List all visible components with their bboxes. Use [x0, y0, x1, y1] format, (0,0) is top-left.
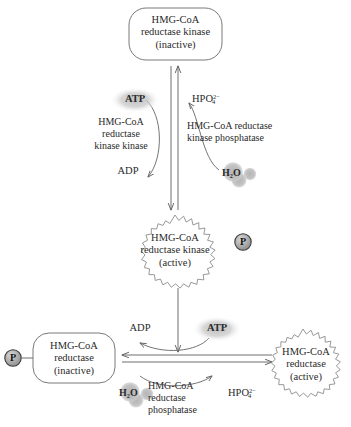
phosphate-label-lower: HPO2−4 — [228, 387, 251, 400]
adp-label-lower: ADP — [122, 322, 158, 334]
water-label-lower: H2O — [119, 387, 138, 399]
kinase-phosphatase-line2: kinase phosphatase — [187, 132, 327, 144]
node-reductase-inactive-shape — [22, 333, 115, 383]
pathway-diagram: HMG-CoA reductase kinase (inactive) ATP … — [0, 0, 351, 427]
water-label-upper: H2O — [222, 167, 241, 179]
phosphate-lower-count: 4 — [248, 392, 251, 399]
adp-label-upper: ADP — [110, 165, 146, 177]
kinase-kinase-line1: HMG-CoA — [78, 116, 164, 128]
arc-atp-to-adp-lower — [140, 338, 209, 350]
phosphate-label-upper: HPO2−4 — [192, 93, 215, 106]
reductase-phosphatase-line2: reductase — [148, 392, 238, 404]
water-upper-h: H — [222, 167, 230, 178]
enzyme-label-kinase-kinase: HMG-CoA reductase kinase kinase — [78, 116, 164, 151]
kinase-kinase-line2: reductase — [78, 128, 164, 140]
kinase-phosphatase-line1: HMG-CoA reductase — [187, 120, 327, 132]
node-kinase-inactive-shape — [129, 8, 222, 60]
enzyme-label-reductase-phosphatase: HMG-CoA reductase phosphatase — [148, 380, 238, 415]
phosphate-lower-main: HPO — [228, 387, 249, 398]
reductase-phosphatase-line1: HMG-CoA — [148, 380, 238, 392]
phosphate-badge-reductase-inactive-label: P — [5, 352, 21, 363]
atp-label-lower: ATP — [200, 322, 234, 334]
enzyme-label-kinase-phosphatase: HMG-CoA reductase kinase phosphatase — [187, 120, 327, 144]
atp-label-upper: ATP — [118, 93, 152, 105]
diagram-vector-layer — [0, 0, 351, 427]
kinase-kinase-line3: kinase kinase — [78, 140, 164, 152]
phosphate-upper-main: HPO — [192, 93, 213, 104]
node-reductase-active-shape — [271, 329, 340, 397]
water-lower-h: H — [119, 387, 127, 398]
phosphate-upper-count: 4 — [212, 98, 215, 105]
reductase-phosphatase-line3: phosphatase — [148, 404, 238, 416]
water-upper-o: O — [233, 167, 241, 178]
node-kinase-active-shape — [141, 215, 215, 288]
phosphate-badge-kinase-active-label: P — [235, 236, 251, 247]
water-lower-o: O — [130, 387, 138, 398]
